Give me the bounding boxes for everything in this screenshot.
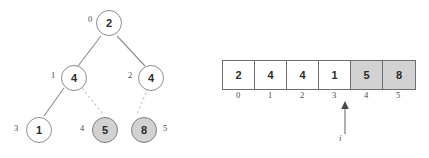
tree-node-1: 4: [61, 65, 87, 91]
array-cell-value-5: 8: [396, 69, 402, 81]
array-cell-5: 8: [383, 61, 415, 89]
array-panel: 2 4 4 1 5 8 0 1 2 3 4 5: [215, 0, 429, 158]
tree-panel: 0 1 2 3 4 5 2 4 4 1 5 8: [0, 0, 215, 158]
tree-node-value-5: 8: [141, 124, 147, 136]
array-index-1: 1: [254, 90, 286, 100]
tree-node-index-0: 0: [88, 14, 92, 24]
tree-node-2: 4: [138, 65, 164, 91]
edge-1-4: [82, 88, 103, 114]
edge-1-3: [44, 88, 64, 116]
tree-node-index-1: 1: [51, 70, 55, 80]
array-cell-3: 1: [319, 61, 351, 89]
tree-node-0: 2: [96, 10, 122, 36]
array-index-5: 5: [382, 90, 414, 100]
array-cell-value-3: 1: [331, 69, 337, 81]
array-cell-4: 5: [351, 61, 383, 89]
tree-node-value-0: 2: [106, 17, 112, 29]
array-index-0: 0: [222, 90, 254, 100]
edge-2-5: [137, 88, 148, 114]
array-cell-2: 4: [287, 61, 319, 89]
tree-node-5: 8: [131, 117, 157, 143]
edge-0-1: [78, 36, 101, 66]
array-cell-1: 4: [255, 61, 287, 89]
pointer-arrow-icon: [333, 100, 357, 134]
tree-node-value-4: 5: [102, 124, 108, 136]
array-index-4: 4: [350, 90, 382, 100]
tree-node-value-2: 4: [148, 72, 154, 84]
array-index-labels: 0 1 2 3 4 5: [222, 90, 414, 100]
tree-node-3: 1: [26, 117, 52, 143]
tree-node-4: 5: [92, 117, 118, 143]
tree-node-index-3: 3: [14, 123, 18, 133]
array-index-2: 2: [286, 90, 318, 100]
pointer-label-i: i: [339, 133, 342, 143]
array-cell-value-2: 4: [299, 69, 305, 81]
tree-node-index-4: 4: [80, 123, 84, 133]
array-cell-0: 2: [223, 61, 255, 89]
edge-0-2: [117, 36, 145, 66]
array-cells: 2 4 4 1 5 8: [222, 60, 416, 90]
tree-node-index-5: 5: [163, 123, 167, 133]
tree-node-index-2: 2: [128, 70, 132, 80]
array-cell-value-4: 5: [363, 69, 369, 81]
array-cell-value-1: 4: [267, 69, 273, 81]
array-index-3: 3: [318, 90, 350, 100]
tree-node-value-1: 4: [71, 72, 77, 84]
heap-array-figure: 0 1 2 3 4 5 2 4 4 1 5 8 2: [0, 0, 429, 158]
array-cell-value-0: 2: [235, 69, 241, 81]
tree-node-value-3: 1: [36, 124, 42, 136]
